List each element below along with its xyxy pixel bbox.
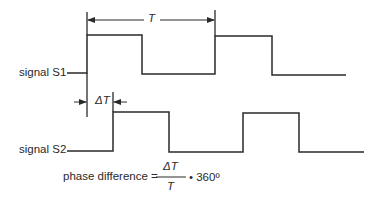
formula-prefix: phase difference = — [63, 170, 158, 182]
period-label: T — [148, 12, 155, 24]
formula-denominator: T — [167, 180, 174, 192]
delta-t-text: ΔT — [95, 94, 110, 106]
signal-s2-waveform — [67, 112, 364, 152]
delta-t-label: ΔT — [95, 94, 110, 106]
formula-multiplier: • 360º — [189, 171, 220, 183]
signal-s1-label: signal S1 — [19, 66, 66, 78]
signal-s1-waveform — [67, 35, 346, 75]
signal-s2-label: signal S2 — [19, 143, 66, 155]
formula-numerator: ΔT — [163, 160, 178, 172]
